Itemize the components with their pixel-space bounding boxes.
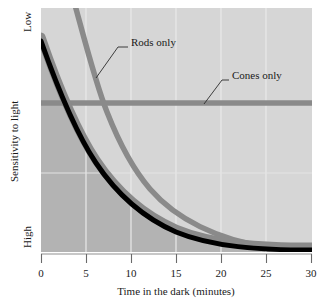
x-tick-label-5: 5 [83,267,89,279]
cones-only-label: Cones only [232,69,282,81]
x-axis-title: Time in the dark (minutes) [117,285,235,298]
x-axis-ticks [42,254,312,263]
dark-adaptation-chart: Rods only Cones only 0 5 10 15 20 25 [0,0,329,302]
x-tick-label-30: 30 [306,267,318,279]
y-axis-title: Sensitivity to light [8,101,20,182]
rods-only-label: Rods only [131,36,176,48]
y-tick-label-low: Low [21,12,33,32]
chart-svg: Rods only Cones only 0 5 10 15 20 25 [0,0,329,302]
x-tick-label-10: 10 [126,267,138,279]
x-tick-label-15: 15 [171,267,183,279]
x-axis-tick-labels: 0 5 10 15 20 25 30 [38,267,317,279]
x-tick-label-20: 20 [216,267,228,279]
x-tick-label-0: 0 [38,267,44,279]
y-tick-label-high: High [21,226,33,249]
x-tick-label-25: 25 [261,267,273,279]
